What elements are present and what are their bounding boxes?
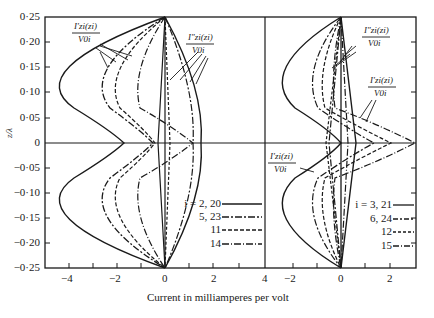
y-tick-label: −0·10: [14, 186, 40, 198]
legend-label: 15: [381, 239, 392, 251]
annotation-left-dprime: I″zi(zi): [188, 32, 213, 42]
legend-label: 11: [210, 223, 221, 235]
legend-label: i = 3, 21: [355, 198, 392, 210]
legend-label: 5, 23: [199, 210, 221, 222]
legend-label: 14: [210, 237, 221, 249]
legend-label: 12: [381, 225, 392, 237]
x-tick-label: −2: [109, 272, 121, 284]
annotation-den: V0i: [368, 38, 381, 48]
annotation-den: V0i: [78, 34, 91, 44]
annotation-leaders: [96, 44, 376, 172]
x-tick-label: −4: [61, 272, 73, 284]
y-tick-label: −0·05: [14, 161, 40, 173]
annotation-left-prime: I′zi(zi): [74, 21, 97, 31]
y-tick-label: 0: [35, 136, 41, 148]
legend-label: i = 2, 20: [184, 197, 221, 209]
x-tick-label: 2: [211, 272, 217, 284]
y-tick-label: 0·25: [20, 10, 40, 22]
x-axis-label: Current in milliamperes per volt: [147, 291, 289, 303]
legend-label: 6, 24: [370, 212, 392, 224]
x-tick-label: 0: [338, 272, 344, 284]
x-tick-label: −2: [284, 272, 296, 284]
y-tick-label: 0·20: [20, 35, 40, 47]
y-tick-label: 0·15: [20, 60, 40, 72]
annotation-den: V0i: [192, 45, 205, 55]
y-tick-label: −0·20: [14, 236, 40, 248]
x-tick-label: 4: [262, 272, 268, 284]
x-tick-label: 2: [387, 272, 393, 284]
x-tick-label: 0: [162, 272, 168, 284]
y-tick-label: −0·25: [14, 261, 40, 273]
y-tick-label: 0·10: [20, 85, 40, 97]
annotation-right-prime-top: I′zi(zi): [370, 75, 393, 85]
annotation-right-dprime: I″zi(zi): [364, 25, 389, 35]
legend-left-samples: [222, 204, 262, 244]
y-tick-label: −0·15: [14, 211, 40, 223]
annotation-right-prime-bottom: I′zi(zi): [270, 151, 293, 161]
legend-right-samples: [393, 205, 414, 246]
annotation-den: V0i: [274, 164, 287, 174]
y-axis-label: z/λ: [4, 128, 14, 138]
y-tick-label: 0·05: [20, 111, 40, 123]
annotation-den: V0i: [374, 88, 387, 98]
